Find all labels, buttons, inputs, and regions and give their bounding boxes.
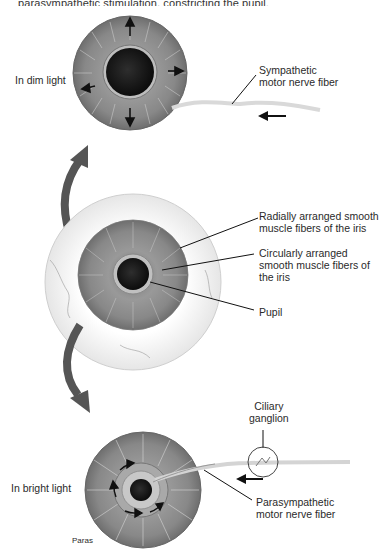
label-in-dim-light: In dim light — [15, 74, 66, 86]
sympathetic-leader-line — [232, 75, 256, 104]
label-radial-muscle: Radially arranged smooth muscle fibers o… — [259, 210, 379, 234]
label-paras-fragment: Paras — [72, 535, 93, 547]
eye-dim-light — [73, 16, 187, 130]
impulse-arrow-sympathetic — [258, 111, 286, 121]
impulse-arrow-parasympathetic — [236, 474, 263, 484]
eye-bright-light — [85, 432, 201, 548]
parasympathetic-leader-line — [204, 470, 252, 500]
label-pupil: Pupil — [259, 306, 282, 318]
label-in-bright-light: In bright light — [11, 482, 71, 494]
label-circular-muscle: Circularly arranged smooth muscle fibers… — [259, 247, 370, 283]
label-ciliary-ganglion: Ciliary ganglion — [249, 400, 289, 424]
ciliary-ganglion — [248, 430, 278, 477]
label-sympathetic-nerve: Sympathetic motor nerve fiber — [259, 64, 338, 88]
label-parasympathetic-nerve: Parasympathetic motor nerve fiber — [256, 496, 335, 520]
sympathetic-nerve-fiber — [172, 102, 320, 110]
